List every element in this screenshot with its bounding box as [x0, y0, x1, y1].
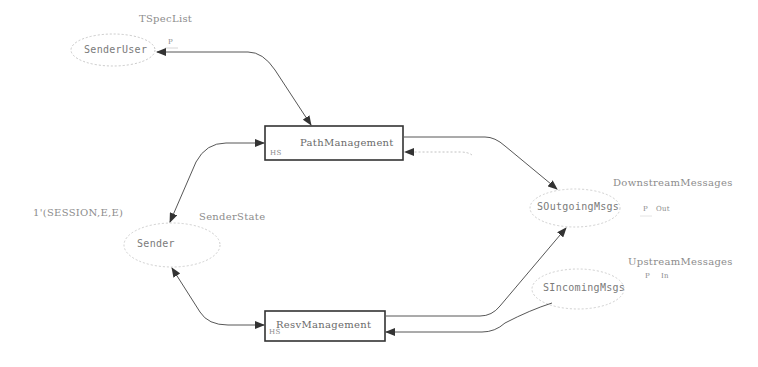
initial-marking-sender: 1'(SESSION,E,E) — [33, 207, 123, 218]
arc-incoming-to-resv — [386, 303, 552, 332]
place-name-s-outgoing-msgs: SOutgoingMsgs — [537, 201, 619, 212]
port-tag-s-outgoing-msgs: P — [643, 205, 648, 213]
place-name-sender: Sender — [137, 238, 175, 249]
hs-tag-resv-management: HS — [269, 328, 281, 336]
arc-resv-to-outgoing — [386, 228, 566, 316]
colorset-label-s-incoming-msgs: UpstreamMessages — [628, 256, 733, 267]
colorset-label-sender: SenderState — [199, 211, 265, 222]
colorset-label-sender-user: TSpecList — [139, 13, 192, 24]
port-tag-sender-user: P — [168, 38, 173, 46]
port-tag-s-incoming-msgs: P — [645, 272, 650, 280]
place-name-s-incoming-msgs: SIncomingMsgs — [543, 282, 625, 293]
transition-name-path-management: PathManagement — [300, 137, 394, 148]
port-type-s-incoming-msgs: In — [661, 272, 669, 280]
transition-name-resv-management: ResvManagement — [276, 319, 371, 330]
arc-outgoing-to-path — [405, 152, 472, 155]
colorset-label-s-outgoing-msgs: DownstreamMessages — [613, 177, 733, 188]
arc-path-to-outgoing — [404, 137, 557, 189]
port-type-s-outgoing-msgs: Out — [656, 205, 670, 213]
arc-sender-resv — [172, 268, 264, 325]
place-name-sender-user: SenderUser — [84, 44, 147, 55]
hs-tag-path-management: HS — [270, 149, 282, 157]
arc-path-sender-user — [157, 52, 311, 125]
